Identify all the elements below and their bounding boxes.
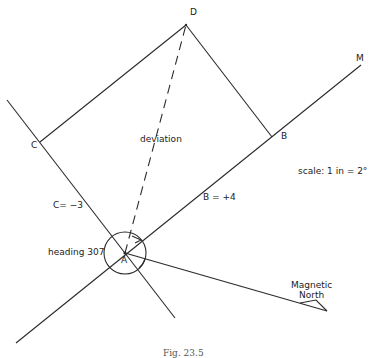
figure-caption: Fig. 23.5: [163, 348, 204, 358]
magnetic-north-angle-arc: [139, 259, 145, 268]
deviation-label: deviation: [140, 135, 182, 144]
b-value-label: B = +4: [203, 193, 236, 202]
point-d-label: D: [190, 8, 197, 17]
point-b-label: B: [281, 132, 287, 141]
point-m-label: M: [356, 54, 364, 63]
line-c-d: [40, 25, 186, 142]
magnetic-north-label-1: Magnetic: [291, 281, 332, 290]
point-a-label: A: [121, 256, 127, 265]
heading-label: heading 307: [48, 248, 104, 257]
point-d-dot: [185, 24, 187, 26]
point-c-label: C: [31, 141, 37, 150]
deviation-arrow-icon: [132, 236, 141, 243]
compass-deviation-diagram: [0, 0, 370, 358]
heading-line: [7, 100, 175, 318]
c-value-label: C= −3: [53, 201, 83, 210]
line-d-b: [186, 25, 272, 137]
scale-note: scale: 1 in = 2°: [298, 167, 367, 176]
magnetic-north-label-2: North: [299, 291, 324, 300]
